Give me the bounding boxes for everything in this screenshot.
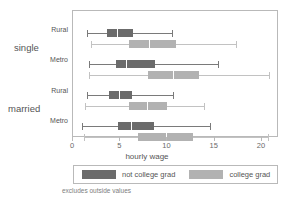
whisker-low — [82, 126, 118, 127]
x-axis-title: hourly wage — [0, 152, 294, 161]
whisker-cap-high — [269, 72, 270, 79]
median-line — [147, 102, 148, 110]
whisker-high — [132, 95, 174, 96]
median-line — [117, 29, 118, 37]
whisker-cap-low — [89, 61, 90, 68]
median-line — [149, 40, 150, 48]
chart-footnote: excludes outside values — [62, 187, 131, 194]
group-label-married: married — [8, 103, 40, 114]
whisker-cap-high — [218, 61, 219, 68]
x-tick-label: 15 — [210, 141, 218, 150]
box-single-metro-not-college-grad — [116, 60, 156, 68]
plot-frame — [72, 10, 278, 137]
whisker-high — [155, 64, 217, 65]
whisker-cap-high — [173, 92, 174, 99]
category-label-single-metro: Metro — [24, 56, 68, 63]
median-line — [119, 91, 120, 99]
category-label-married-metro: Metro — [24, 117, 68, 124]
box-plot-figure: single married Rural Metro Rural Metro 0… — [0, 0, 294, 204]
whisker-cap-high — [204, 103, 205, 110]
legend-entry-not-college-grad: not college grad — [82, 166, 175, 183]
whisker-high — [133, 33, 172, 34]
group-label-single: single — [14, 42, 39, 53]
whisker-low — [87, 33, 107, 34]
whisker-low — [87, 95, 109, 96]
legend-entry-college-grad: college grad — [189, 166, 270, 183]
whisker-cap-low — [87, 30, 88, 37]
category-label-single-rural: Rural — [24, 26, 68, 33]
whisker-low — [89, 64, 115, 65]
whisker-cap-low — [85, 103, 86, 110]
whisker-cap-high — [236, 41, 237, 48]
legend-label-not-college-grad: not college grad — [122, 170, 175, 179]
median-line — [173, 71, 174, 79]
plot-area — [73, 11, 277, 136]
whisker-cap-low — [82, 123, 83, 130]
legend-swatch-college-grad — [189, 170, 223, 179]
whisker-low — [91, 44, 129, 45]
whisker-high — [199, 75, 269, 76]
x-tick-label: 20 — [257, 141, 265, 150]
x-axis: 05101520 — [72, 137, 278, 153]
whisker-high — [176, 44, 236, 45]
chart-legend: not college grad college grad — [73, 165, 278, 184]
median-line — [131, 122, 132, 130]
x-tick-label: 0 — [70, 141, 74, 150]
box-married-metro-not-college-grad — [118, 122, 154, 130]
whisker-low — [85, 106, 128, 107]
median-line — [126, 60, 127, 68]
whisker-cap-high — [210, 123, 211, 130]
whisker-cap-low — [87, 92, 88, 99]
whisker-cap-low — [91, 41, 92, 48]
whisker-low — [89, 75, 148, 76]
whisker-high — [167, 106, 205, 107]
category-label-married-rural: Rural — [24, 87, 68, 94]
whisker-high — [154, 126, 210, 127]
legend-label-college-grad: college grad — [229, 170, 270, 179]
legend-swatch-not-college-grad — [82, 170, 116, 179]
whisker-cap-low — [89, 72, 90, 79]
whisker-cap-high — [172, 30, 173, 37]
box-single-rural-not-college-grad — [107, 29, 133, 37]
x-tick-label: 10 — [162, 141, 170, 150]
box-single-rural-college-grad — [129, 40, 176, 48]
x-tick-label: 5 — [117, 141, 121, 150]
